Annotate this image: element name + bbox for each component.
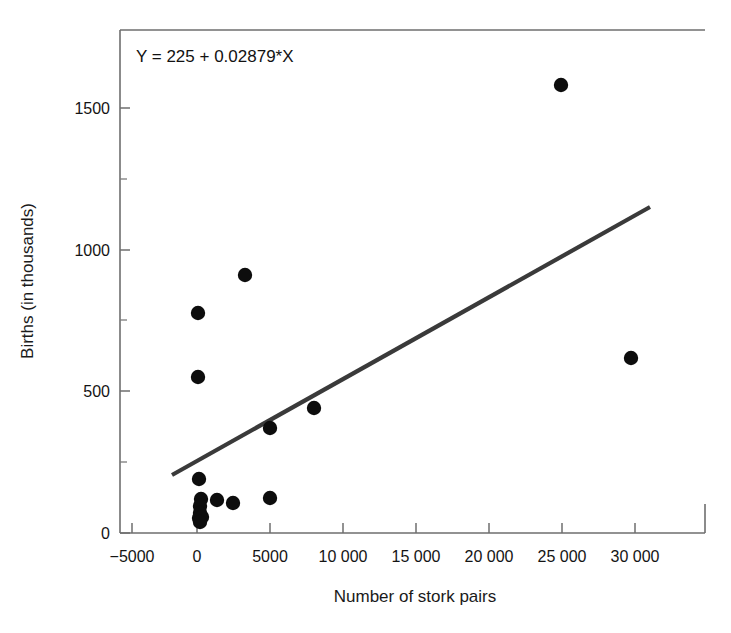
x-tick-label-10000: 10 000: [319, 548, 368, 565]
y-tick-label-1000: 1000: [74, 242, 110, 259]
y-tick-label-1500: 1500: [74, 100, 110, 117]
y-tick-label-500: 500: [83, 383, 110, 400]
data-point: [624, 351, 638, 365]
data-point: [238, 268, 252, 282]
data-point: [554, 78, 568, 92]
y-tick-label-0: 0: [101, 525, 110, 542]
regression-equation-annotation: Y = 225 + 0.02879*X: [136, 47, 294, 66]
data-point: [263, 491, 277, 505]
x-tick-label-0: 0: [193, 548, 202, 565]
data-point: [263, 421, 277, 435]
data-point: [210, 493, 224, 507]
data-point: [193, 515, 207, 529]
x-tick-label-25000: 25 000: [538, 548, 587, 565]
data-point: [307, 401, 321, 415]
data-point: [191, 370, 205, 384]
x-tick-label-15000: 15 000: [392, 548, 441, 565]
x-tick-label-5000: 5000: [252, 548, 288, 565]
data-point: [192, 472, 206, 486]
x-axis-label: Number of stork pairs: [334, 587, 497, 606]
x-tick-label-20000: 20 000: [465, 548, 514, 565]
stork-births-scatter-chart: 0 500 1000 1500 −5000 0 5000 10 000 15 0…: [0, 0, 731, 633]
data-point: [191, 306, 205, 320]
y-axis-label: Births (in thousands): [18, 203, 37, 359]
x-tick-label-30000: 30 000: [611, 548, 660, 565]
data-point: [226, 496, 240, 510]
x-tick-label--5000: −5000: [110, 548, 155, 565]
